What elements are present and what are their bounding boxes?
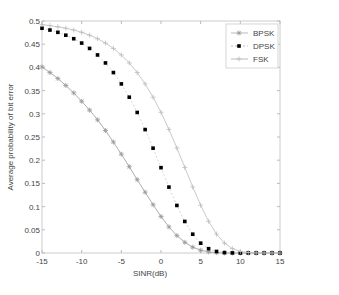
- x-tick-label: -10: [76, 257, 88, 266]
- y-tick-label: 0.3: [29, 110, 41, 119]
- legend-label: DPSK: [253, 42, 275, 51]
- x-tick-label: 0: [159, 257, 164, 266]
- chart: -15-10-505101500.050.10.150.20.250.30.35…: [0, 0, 339, 295]
- x-tick-label: -15: [36, 257, 48, 266]
- y-tick-label: 0.45: [24, 40, 40, 49]
- y-tick-label: 0.2: [29, 156, 41, 165]
- legend-label: BPSK: [253, 29, 275, 38]
- y-tick-label: 0: [36, 249, 41, 258]
- x-tick-label: 10: [236, 257, 245, 266]
- y-tick-label: 0.15: [24, 179, 40, 188]
- y-tick-label: 0.35: [24, 87, 40, 96]
- x-tick-label: 5: [198, 257, 203, 266]
- y-tick-label: 0.4: [29, 63, 41, 72]
- y-tick-label: 0.25: [24, 133, 40, 142]
- x-tick-label: -5: [118, 257, 126, 266]
- y-tick-label: 0.05: [24, 226, 40, 235]
- x-axis-label: SINR(dB): [133, 269, 168, 278]
- y-tick-label: 0.1: [29, 203, 41, 212]
- series-bpsk: [40, 64, 283, 255]
- y-tick-label: 0.5: [29, 17, 41, 26]
- legend: BPSKDPSKFSK: [226, 24, 278, 68]
- y-axis-label: Average probability of bit error: [6, 83, 15, 190]
- legend-label: FSK: [253, 55, 269, 64]
- x-tick-label: 15: [276, 257, 285, 266]
